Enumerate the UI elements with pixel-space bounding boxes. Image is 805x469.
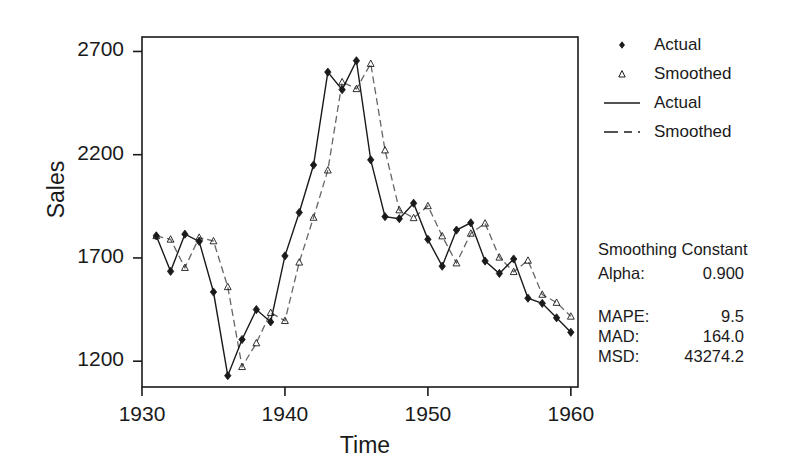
mad-label: MAD:	[598, 327, 660, 346]
smoothing-constant-title: Smoothing Constant	[598, 240, 803, 259]
actual-data-point	[167, 267, 173, 275]
actual-data-point	[525, 294, 531, 302]
actual-data-point	[239, 335, 245, 343]
x-axis-title: Time	[255, 432, 475, 459]
mape-value: 9.5	[660, 307, 744, 326]
smoothed-data-point	[296, 259, 303, 265]
y-tick-label: 1200	[38, 347, 124, 371]
statistics-panel: Smoothing Constant Alpha: 0.900 MAPE: 9.…	[598, 240, 803, 367]
actual-data-point	[368, 156, 374, 164]
x-tick-label: 1930	[102, 402, 182, 426]
stats-spacer	[598, 284, 803, 307]
msd-label: MSD:	[598, 347, 660, 366]
actual-data-point	[267, 318, 273, 326]
mad-row: MAD: 164.0	[598, 327, 803, 346]
alpha-row: Alpha: 0.900	[598, 264, 803, 283]
legend-label-smoothed-marker: Smoothed	[654, 64, 732, 84]
dashed-line-icon	[598, 127, 646, 137]
actual-data-point	[210, 288, 216, 296]
y-axis-ticks	[133, 51, 142, 361]
legend-label-actual-marker: Actual	[654, 35, 701, 55]
actual-data-point	[225, 372, 231, 380]
actual-data-point	[282, 252, 288, 260]
open-triangle-icon	[598, 67, 646, 81]
x-tick-label: 1960	[531, 402, 611, 426]
alpha-label: Alpha:	[598, 264, 660, 283]
solid-line-icon	[598, 98, 646, 108]
smoothed-data-point	[553, 299, 560, 305]
msd-row: MSD: 43274.2	[598, 347, 803, 366]
smoothed-data-point	[482, 220, 489, 226]
legend-item-smoothed-marker: Smoothed	[598, 59, 798, 88]
mape-row: MAPE: 9.5	[598, 307, 803, 326]
x-tick-label: 1940	[245, 402, 325, 426]
legend-item-smoothed-line: Smoothed	[598, 117, 798, 146]
smoothed-data-point	[253, 339, 260, 345]
legend: Actual Smoothed Actual Smoothed	[598, 30, 798, 146]
actual-data-point	[453, 226, 459, 234]
y-tick-label: 2700	[38, 37, 124, 61]
actual-data-point	[482, 257, 488, 265]
actual-data-point	[296, 208, 302, 216]
legend-label-smoothed-line: Smoothed	[654, 122, 732, 142]
legend-label-actual-line: Actual	[654, 93, 701, 113]
actual-data-point	[353, 57, 359, 65]
alpha-value: 0.900	[660, 264, 744, 283]
filled-diamond-icon	[598, 38, 646, 52]
legend-item-actual-marker: Actual	[598, 30, 798, 59]
smoothed-data-point	[367, 60, 374, 66]
x-tick-label: 1950	[388, 402, 468, 426]
actual-data-point	[310, 161, 316, 169]
actual-data-point	[253, 305, 259, 313]
series-actual-markers	[153, 57, 574, 380]
legend-item-actual-line: Actual	[598, 88, 798, 117]
actual-data-point	[182, 230, 188, 238]
x-axis-ticks	[142, 387, 571, 396]
y-axis-title: Sales	[43, 130, 70, 250]
mad-value: 164.0	[660, 327, 744, 346]
msd-value: 43274.2	[660, 347, 744, 366]
mape-label: MAPE:	[598, 307, 660, 326]
series-actual-line	[156, 61, 571, 376]
actual-data-point	[382, 213, 388, 221]
chart-container: 1200170022002700 1930194019501960 Sales …	[0, 0, 805, 469]
actual-data-point	[468, 219, 474, 227]
